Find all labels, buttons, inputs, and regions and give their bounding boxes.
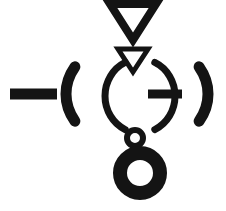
background-rect (0, 0, 226, 211)
glyph-canvas: Abstract Symbol Glyph Monochrome abstrac… (0, 0, 226, 211)
symbol-glyph (0, 0, 226, 211)
